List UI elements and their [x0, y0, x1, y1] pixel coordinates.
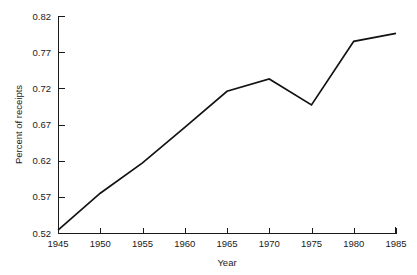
x-axis-tick-label: 1950 [90, 238, 111, 249]
x-axis-tick-label: 1945 [47, 238, 68, 249]
x-axis-title: Year [217, 257, 236, 268]
x-axis-tick-label: 1975 [301, 238, 322, 249]
x-axis-tick-label-group: 194519501955196019651970197519801985 [47, 238, 406, 249]
x-axis-tick-label: 1980 [343, 238, 364, 249]
y-axis-title: Percent of receipts [13, 85, 24, 164]
data-series-line [58, 33, 396, 230]
x-axis-tick-label: 1970 [259, 238, 280, 249]
y-axis-tick-label: 0.77 [33, 47, 52, 58]
line-chart: 0.520.570.620.670.720.770.82 19451950195… [0, 0, 417, 275]
y-axis-tick-label: 0.67 [33, 119, 52, 130]
x-axis-tick-label: 1960 [174, 238, 195, 249]
y-axis-tick-label: 0.72 [33, 83, 52, 94]
y-axis-tick-label: 0.62 [33, 155, 52, 166]
x-axis-tick-label: 1955 [132, 238, 153, 249]
x-axis-tick-mark-group [59, 228, 397, 234]
y-axis-tick-mark-group [59, 17, 65, 234]
x-axis-tick-label: 1985 [385, 238, 406, 249]
y-axis-tick-label-group: 0.520.570.620.670.720.770.82 [33, 11, 52, 239]
x-axis-tick-label: 1965 [216, 238, 237, 249]
y-axis-tick-label: 0.82 [33, 11, 52, 22]
y-axis-tick-label: 0.52 [33, 228, 52, 239]
y-axis-tick-label: 0.57 [33, 191, 52, 202]
chart-page: 0.520.570.620.670.720.770.82 19451950195… [0, 0, 417, 275]
